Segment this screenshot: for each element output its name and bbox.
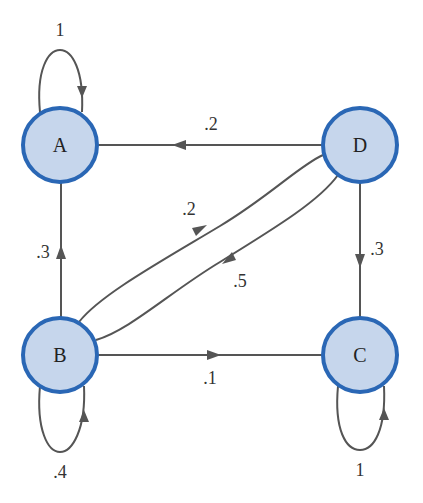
arrow-icon bbox=[355, 254, 365, 268]
arrow-icon bbox=[56, 245, 66, 259]
edge-label-d-c: .3 bbox=[370, 239, 384, 259]
edge-d-to-a: .2 bbox=[98, 114, 322, 150]
edge-label-b-d: .2 bbox=[182, 199, 196, 219]
node-c: C bbox=[323, 318, 397, 392]
node-label-c: C bbox=[353, 344, 366, 366]
node-d: D bbox=[323, 108, 397, 182]
edge-b-to-d: .2 bbox=[79, 155, 323, 322]
edge-label-b-a: .3 bbox=[36, 242, 50, 262]
node-a: A bbox=[23, 108, 97, 182]
edge-label-d-a: .2 bbox=[204, 114, 218, 134]
edge-d-to-c: .3 bbox=[355, 183, 384, 317]
edge-a-to-a: 1 bbox=[39, 20, 87, 112]
arrow-icon bbox=[79, 410, 89, 422]
edge-label-a-a: 1 bbox=[56, 20, 65, 40]
arrow-icon bbox=[207, 350, 221, 360]
arrow-icon bbox=[172, 140, 186, 150]
markov-chain-diagram: 1 .2 .2 .5 .3 .3 .1 .4 bbox=[0, 0, 423, 503]
edge-d-to-b: .5 bbox=[96, 175, 338, 340]
arrow-icon bbox=[77, 86, 87, 98]
node-label-a: A bbox=[53, 134, 68, 156]
arrow-icon bbox=[379, 408, 389, 420]
edge-b-to-c: .1 bbox=[98, 350, 322, 388]
node-b: B bbox=[23, 318, 97, 392]
edge-label-d-b: .5 bbox=[233, 271, 247, 291]
edge-label-c-c: 1 bbox=[356, 460, 365, 480]
edge-b-to-b: .4 bbox=[39, 386, 89, 482]
edge-c-to-c: 1 bbox=[337, 386, 389, 480]
edge-label-b-c: .1 bbox=[203, 368, 217, 388]
edge-label-b-b: .4 bbox=[53, 462, 67, 482]
edge-b-to-a: .3 bbox=[36, 183, 66, 317]
node-label-d: D bbox=[353, 134, 367, 156]
node-label-b: B bbox=[53, 344, 66, 366]
